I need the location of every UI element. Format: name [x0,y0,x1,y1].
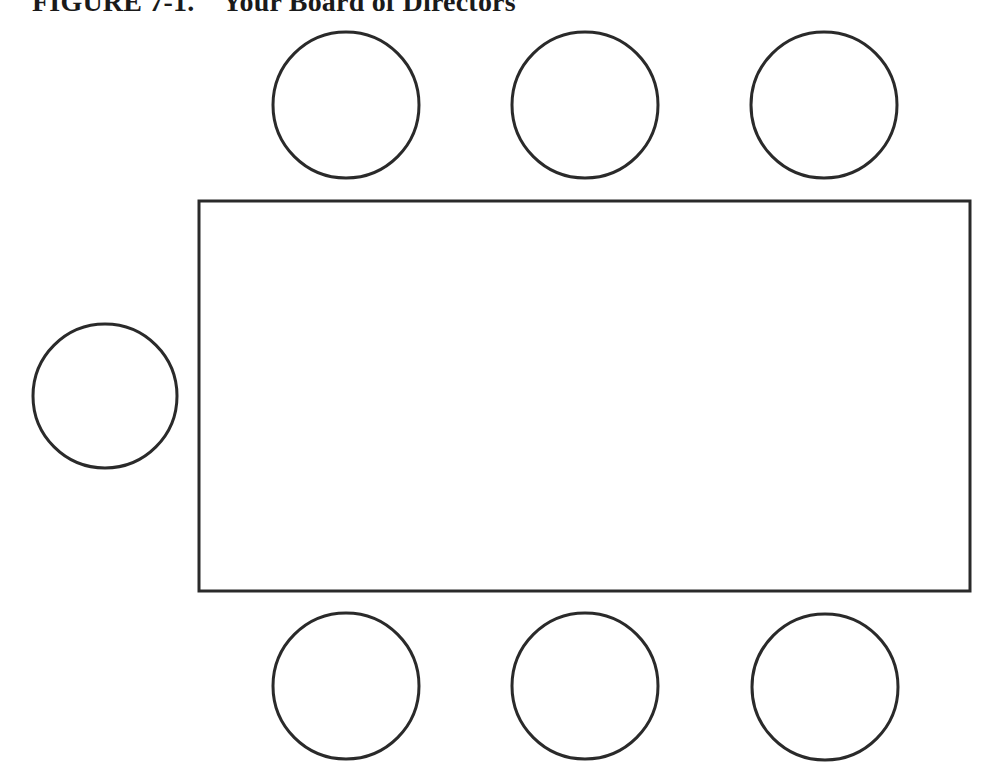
seat-circle-top-3 [751,32,897,178]
seat-circle-bottom-1 [273,613,419,759]
seat-circle-top-2 [512,32,658,178]
seat-group [33,32,898,760]
seat-circle-bottom-2 [512,613,658,759]
seat-circle-bottom-3 [752,614,898,760]
board-table [199,201,970,591]
seat-circle-top-1 [273,32,419,178]
board-diagram [0,0,998,782]
seat-circle-left-1 [33,324,177,468]
